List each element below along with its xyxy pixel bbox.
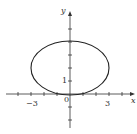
y-axis-arrow-icon (68, 11, 72, 16)
x-tick-label-neg3: −3 (26, 100, 38, 108)
y-axis-label: y (61, 7, 66, 15)
x-axis-label: x (131, 97, 136, 105)
y-tick-label-1: 1 (62, 77, 67, 85)
origin-label: 0 (64, 96, 69, 104)
ellipse-plot (0, 0, 137, 134)
x-tick-label-3: 3 (105, 100, 110, 108)
